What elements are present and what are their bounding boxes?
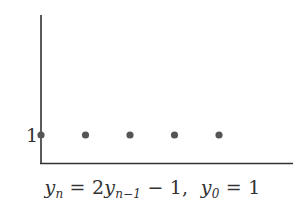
caption-init-var: y xyxy=(201,176,212,198)
data-points xyxy=(37,131,222,138)
data-point xyxy=(171,131,178,138)
chart-caption: yn = 2yn−1 − 1, y0 = 1 xyxy=(0,176,305,198)
caption-init-sub-text: 0 xyxy=(212,187,220,201)
data-point xyxy=(215,131,222,138)
data-point xyxy=(82,131,89,138)
y-tick-label: 1 xyxy=(26,124,38,146)
data-point xyxy=(37,131,44,138)
caption-rhs-sub-text: n−1 xyxy=(115,187,141,201)
data-point xyxy=(126,131,133,138)
caption-rhs-var: y xyxy=(104,176,115,198)
caption-init-sub: 0 xyxy=(212,187,220,201)
caption-rhs-sub: n−1 xyxy=(115,187,141,201)
caption-init-tail: = 1 xyxy=(220,176,261,198)
caption-lhs-var: y xyxy=(44,176,55,198)
caption-rhs-tail: − 1, xyxy=(141,176,201,198)
caption-eq1: = 2 xyxy=(63,176,104,198)
